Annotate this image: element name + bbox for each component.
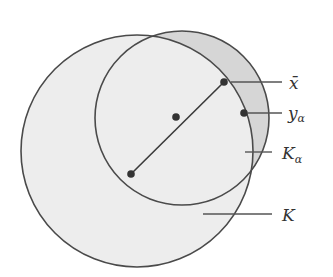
- k-label: K: [281, 205, 296, 225]
- center-point: [127, 170, 135, 178]
- x-bar-label: x̄: [289, 73, 299, 93]
- y-alpha-point: [240, 109, 248, 117]
- k-region: [21, 35, 253, 267]
- y-alpha-label: yα: [287, 103, 306, 125]
- x-bar-point: [220, 78, 228, 86]
- convex-sets-diagram: x̄ yα Kα K: [0, 0, 333, 277]
- y-alpha-base: y: [287, 103, 298, 123]
- k-alpha-label: Kα: [281, 143, 303, 166]
- midpoint-point: [172, 113, 180, 121]
- y-alpha-subscript: α: [298, 112, 306, 125]
- k-alpha-subscript: α: [295, 153, 303, 166]
